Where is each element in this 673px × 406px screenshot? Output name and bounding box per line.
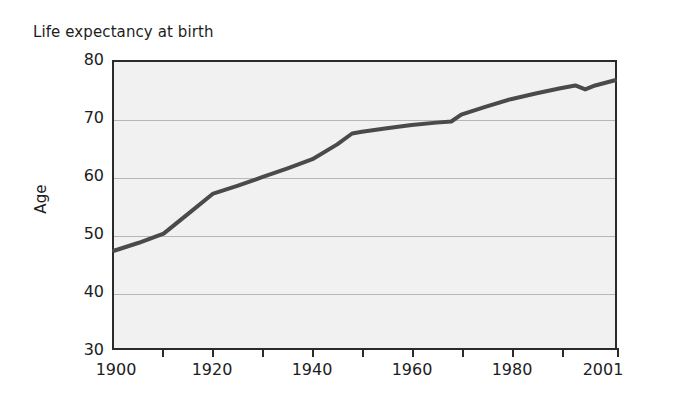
y-tick-label-60: 60 [60,168,104,184]
y-tick-label-80: 80 [60,52,104,68]
x-tick-1980 [512,348,514,357]
x-tick-label-1940: 1940 [292,360,333,380]
x-tick-label-1900: 1900 [96,360,137,380]
series-line-0 [114,80,615,250]
y-axis-title: Age [32,149,50,249]
y-tick-label-50: 50 [60,226,104,242]
x-tick-1910 [162,348,164,357]
x-tick-1960 [412,348,414,357]
x-tick-label-2001: 2001 [583,360,624,380]
line-series [114,62,615,348]
x-tick-label-1960: 1960 [392,360,433,380]
y-tick-label-30: 30 [60,342,104,358]
x-tick-1940 [312,348,314,357]
x-tick-1970 [462,348,464,357]
x-tick-2001 [617,348,619,357]
plot-area [112,60,617,350]
chart-figure: Life expectancy at birth Age 80706050403… [0,0,673,406]
y-axis-tick-labels: 807060504030 [54,0,104,406]
x-tick-label-1920: 1920 [192,360,233,380]
x-tick-1950 [362,348,364,357]
x-tick-1990 [562,348,564,357]
y-tick-label-40: 40 [60,284,104,300]
x-tick-label-1980: 1980 [492,360,533,380]
x-tick-1930 [262,348,264,357]
x-axis-ticks [112,348,617,357]
x-axis-tick-labels: 190019201940196019802001 [0,360,673,386]
y-tick-label-70: 70 [60,110,104,126]
x-tick-1920 [212,348,214,357]
